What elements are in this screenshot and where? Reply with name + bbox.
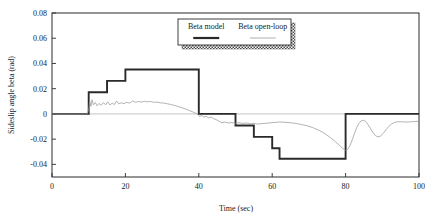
x-tick-label: 40 [195, 182, 203, 191]
y-tick-label: 0.02 [33, 85, 47, 94]
y-tick-label: 0 [43, 110, 47, 119]
x-tick-label: 0 [50, 182, 54, 191]
legend-label-beta-open-loop: Beta open-loop [238, 22, 287, 31]
y-tick-label: -0.02 [30, 135, 47, 144]
y-tick-label: 0.04 [33, 59, 47, 68]
x-tick-label: 60 [268, 182, 276, 191]
chart-legend[interactable]: Beta modelBeta open-loop [178, 19, 295, 49]
x-axis-label: Time (sec) [219, 204, 253, 213]
x-tick-label: 80 [342, 182, 350, 191]
y-tick-label: 0.08 [33, 9, 47, 18]
y-axis-label: Sideslip angle beta (rad) [7, 56, 16, 134]
chart-canvas: 0.080.060.040.020-0.02-0.04 020406080100… [0, 0, 437, 220]
x-tick-label: 100 [413, 182, 425, 191]
x-tick-label: 20 [121, 182, 129, 191]
y-tick-label: 0.06 [33, 34, 47, 43]
y-tick-label: -0.04 [30, 160, 47, 169]
legend-label-beta-model: Beta model [188, 22, 225, 31]
chart-figure: 0.080.060.040.020-0.02-0.04 020406080100… [0, 0, 437, 220]
